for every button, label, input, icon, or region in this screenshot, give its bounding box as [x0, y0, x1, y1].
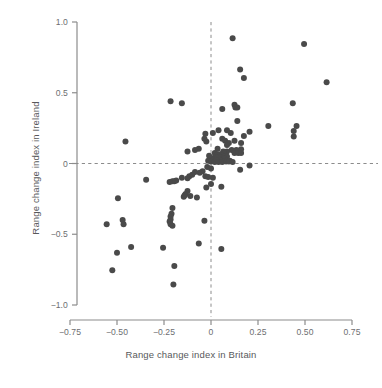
data-point — [128, 244, 134, 250]
y-axis-tick-label: −0.5 — [51, 229, 68, 239]
data-point — [230, 159, 236, 165]
data-point — [201, 218, 207, 224]
x-axis-tick-label: −0.25 — [153, 327, 175, 337]
data-point — [196, 240, 202, 246]
data-point — [143, 177, 149, 183]
data-point — [301, 41, 307, 47]
data-point — [291, 134, 297, 140]
data-point — [238, 150, 244, 156]
data-point — [179, 100, 185, 106]
scatter-plot-figure: 1.00.50−0.5−1.0−0.75−0.50−0.2500.250.500… — [0, 0, 382, 388]
data-point — [234, 105, 240, 111]
data-point — [324, 79, 330, 85]
y-axis-tick-label: −1.0 — [51, 300, 68, 310]
data-point — [224, 127, 230, 133]
data-point — [185, 148, 191, 154]
data-point — [171, 263, 177, 269]
data-point — [218, 246, 224, 252]
data-point — [115, 195, 121, 201]
data-point — [204, 164, 210, 170]
plot-canvas: 1.00.50−0.5−1.0−0.75−0.50−0.2500.250.500… — [0, 0, 382, 388]
data-point — [241, 133, 247, 139]
data-point — [121, 221, 127, 227]
data-point — [114, 250, 120, 256]
data-point — [232, 138, 238, 144]
data-point — [203, 185, 209, 191]
data-point — [238, 140, 244, 146]
y-axis-tick-label: 0.5 — [56, 88, 68, 98]
data-point — [265, 123, 271, 129]
data-point — [194, 194, 200, 200]
data-point — [170, 281, 176, 287]
data-point — [290, 100, 296, 106]
data-point — [169, 205, 175, 211]
data-point — [202, 131, 208, 137]
data-point — [203, 139, 209, 145]
data-point — [218, 184, 224, 190]
data-point — [167, 179, 173, 185]
x-axis-title: Range change index in Britain — [0, 349, 382, 360]
data-point — [234, 118, 240, 124]
data-point — [122, 139, 128, 145]
data-point-group — [104, 35, 330, 287]
data-point — [247, 163, 253, 169]
y-axis-title: Range change index in Ireland — [30, 68, 41, 268]
data-point — [247, 129, 253, 135]
data-point — [192, 147, 198, 153]
x-axis-tick-label: 0.75 — [343, 327, 360, 337]
data-point — [185, 175, 191, 181]
y-axis-tick-label: 1.0 — [56, 17, 68, 27]
data-point — [168, 98, 174, 104]
x-axis-tick-label: 0.50 — [296, 327, 313, 337]
data-point — [206, 153, 212, 159]
data-point — [241, 75, 247, 81]
data-point — [216, 127, 222, 133]
data-point — [210, 130, 216, 136]
data-point — [104, 221, 110, 227]
y-axis-tick-label: 0 — [63, 159, 68, 169]
data-point — [230, 35, 236, 41]
data-point — [179, 175, 185, 181]
x-axis-tick-label: 0.25 — [249, 327, 266, 337]
data-point — [109, 267, 115, 273]
data-point — [187, 193, 193, 199]
data-point — [291, 128, 297, 134]
data-point — [237, 66, 243, 72]
data-point — [210, 175, 216, 181]
data-point — [237, 167, 243, 173]
data-point — [224, 142, 230, 148]
data-point — [181, 194, 187, 200]
x-axis-tick-label: 0 — [209, 327, 214, 337]
data-point — [219, 106, 225, 112]
x-axis-tick-label: −0.50 — [106, 327, 128, 337]
x-axis-tick-label: −0.75 — [59, 327, 81, 337]
data-point — [160, 245, 166, 251]
data-point — [169, 223, 175, 229]
